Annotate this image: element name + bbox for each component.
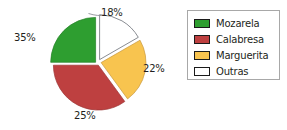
legend-item-calabresa[interactable]: Calabresa xyxy=(194,32,279,47)
chart-legend: Mozarela Calabresa Marguerita Outras xyxy=(187,10,280,80)
slice-value-label-mozarela: 35% xyxy=(14,32,36,43)
legend-swatch-mozarela xyxy=(194,19,210,28)
legend-item-marguerita[interactable]: Marguerita xyxy=(194,48,279,63)
legend-label-outras: Outras xyxy=(216,66,248,77)
legend-label-marguerita: Marguerita xyxy=(216,50,268,61)
legend-item-mozarela[interactable]: Mozarela xyxy=(194,16,279,31)
legend-label-calabresa: Calabresa xyxy=(216,34,264,45)
slice-value-label-marguerita: 22% xyxy=(143,63,165,74)
legend-swatch-marguerita xyxy=(194,51,210,60)
legend-label-mozarela: Mozarela xyxy=(216,18,259,29)
pie-plot-area: 18% 22% 25% 35% xyxy=(0,0,180,130)
slice-value-label-outras: 18% xyxy=(101,7,123,18)
legend-swatch-calabresa xyxy=(194,35,210,44)
slice-value-label-calabresa: 25% xyxy=(74,110,96,121)
legend-item-outras[interactable]: Outras xyxy=(194,64,279,79)
pie-chart-figure: 18% 22% 25% 35% Mozarela Calabresa Margu… xyxy=(0,0,287,130)
pie-slice-mozarela[interactable] xyxy=(51,17,96,62)
legend-swatch-outras xyxy=(194,67,210,76)
